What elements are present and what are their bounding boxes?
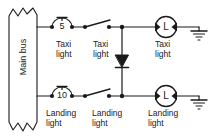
label-taxi-lamp: Taxi light (155, 40, 171, 59)
label-landing-lamp: Landing light (148, 109, 178, 128)
label-taxi-switch-line2: light (93, 50, 109, 60)
label-taxi-fuse-line2: light (56, 50, 72, 60)
switch-taxi-blade (85, 20, 110, 27)
fuse-landing-rating: 10 (54, 90, 70, 100)
label-landing-switch-line2: light (92, 119, 122, 129)
label-landing-lamp-line2: light (148, 119, 178, 129)
label-landing-fuse: Landing light (46, 109, 76, 128)
label-taxi-fuse: Taxi light (56, 40, 72, 59)
fuse-taxi-rating: 5 (54, 21, 70, 31)
label-taxi-lamp-line2: light (155, 50, 171, 60)
main-bus-label: Main bus (18, 29, 28, 85)
label-landing-switch: Landing light (92, 109, 122, 128)
circuit-diagram: Main bus 5 10 Taxi light Taxi light Taxi… (0, 0, 220, 140)
label-landing-fuse-line2: light (46, 119, 76, 129)
label-taxi-switch: Taxi light (93, 40, 109, 59)
lamp-taxi-glyph: L (160, 21, 172, 32)
diode-triangle (116, 55, 129, 67)
switch-landing-blade (85, 89, 110, 96)
lamp-landing-glyph: L (160, 90, 172, 101)
